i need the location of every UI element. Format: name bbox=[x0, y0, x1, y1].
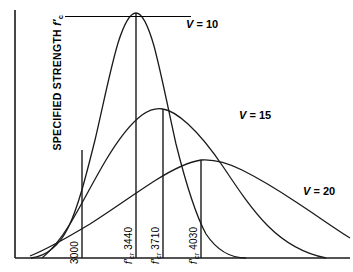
distribution-curve-v15 bbox=[42, 109, 326, 258]
strength-distribution-figure: SPECIFIED STRENGTH f′c 3000 f′cr 3440 f′… bbox=[0, 0, 353, 272]
distribution-curve-v10 bbox=[31, 13, 246, 258]
plot-area bbox=[0, 0, 353, 272]
distribution-curve-v20 bbox=[30, 160, 350, 256]
